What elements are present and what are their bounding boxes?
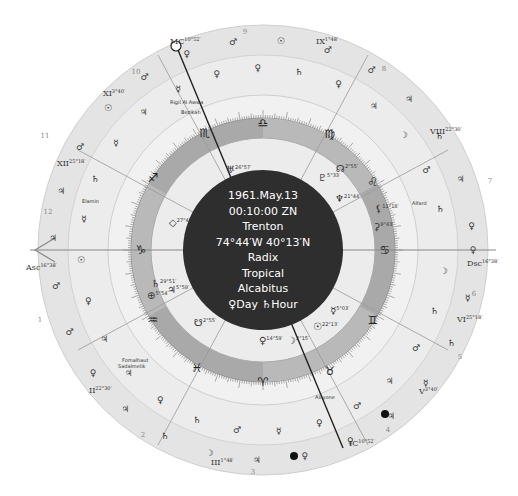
svg-text:♀: ♀ — [335, 79, 342, 89]
svg-text:♂: ♂ — [422, 165, 430, 175]
svg-text:☿: ☿ — [113, 138, 119, 148]
svg-text:♀: ♀ — [468, 221, 475, 231]
svg-text:♀: ♀ — [157, 395, 164, 405]
svg-text:7: 7 — [488, 177, 492, 185]
svg-text:♄: ♄ — [295, 67, 303, 77]
svg-text:☿: ☿ — [276, 426, 282, 436]
chart-type: Radix — [189, 250, 337, 266]
svg-text:♀: ♀ — [347, 436, 354, 446]
svg-text:♀: ♀ — [90, 368, 97, 378]
svg-text:♄: ♄ — [91, 174, 99, 184]
svg-text:5: 5 — [458, 353, 462, 361]
svg-text:☽: ☽ — [206, 448, 214, 458]
svg-text:♄: ♄ — [436, 131, 444, 141]
sign-aquarius-icon: ♒ — [148, 313, 159, 327]
svg-text:1: 1 — [38, 316, 42, 324]
svg-text:2: 2 — [141, 431, 145, 439]
sign-pisces-icon: ♓ — [192, 361, 203, 375]
sign-leo-icon: ♌ — [368, 175, 379, 189]
svg-text:♃: ♃ — [140, 107, 148, 117]
svg-text:♀: ♀ — [255, 63, 262, 73]
zodiac-type: Tropical — [189, 266, 337, 282]
house-system: Alcabitus — [189, 281, 337, 297]
svg-text:♃: ♃ — [57, 186, 65, 196]
svg-text:8: 8 — [382, 65, 386, 73]
svg-text:☉: ☉ — [277, 36, 285, 46]
svg-text:☿: ☿ — [175, 84, 181, 94]
svg-text:3: 3 — [251, 468, 255, 476]
svg-text:♂: ♂ — [367, 65, 375, 75]
svg-text:12: 12 — [44, 208, 53, 216]
svg-text:☿: ☿ — [423, 378, 429, 388]
svg-text:♄: ♄ — [436, 204, 444, 214]
svg-text:♃: ♃ — [100, 334, 108, 344]
svg-text:♀: ♀ — [316, 418, 323, 428]
svg-text:♃: ♃ — [125, 368, 133, 378]
marker-dot — [290, 452, 298, 460]
svg-text:♂: ♂ — [140, 72, 148, 82]
svg-text:♃: ♃ — [121, 404, 129, 414]
svg-text:♀: ♀ — [301, 451, 308, 461]
chart-date: 1961.May.13 — [189, 188, 337, 204]
svg-text:☉: ☉ — [77, 255, 85, 265]
chart-time: 00:10:00 ZN — [189, 204, 337, 220]
svg-text:☽: ☽ — [400, 130, 408, 140]
svg-text:Elamin: Elamin — [82, 198, 99, 204]
svg-text:☉: ☉ — [104, 103, 112, 113]
svg-text:♃: ♃ — [457, 174, 465, 184]
svg-text:Bezikah: Bezikah — [181, 109, 201, 115]
svg-text:♂: ♂ — [353, 401, 361, 411]
svg-text:♄: ♄ — [193, 415, 201, 425]
sign-virgo-icon: ♍ — [325, 127, 336, 141]
svg-text:♃: ♃ — [253, 455, 261, 465]
svg-text:☿: ☿ — [465, 293, 471, 303]
sign-gemini-icon: ♊ — [368, 313, 379, 327]
chart-coords: 74°44′W 40°13′N — [189, 235, 337, 251]
svg-text:♃: ♃ — [370, 101, 378, 111]
sign-libra-icon: ♎ — [258, 116, 269, 130]
svg-text:☿: ☿ — [81, 214, 87, 224]
svg-text:4: 4 — [386, 426, 391, 434]
svg-text:11: 11 — [41, 132, 50, 140]
svg-text:9: 9 — [243, 28, 247, 36]
marker-dot — [381, 410, 389, 418]
svg-text:Rigil Al Awwa: Rigil Al Awwa — [170, 99, 203, 106]
svg-text:♀: ♀ — [184, 49, 191, 59]
svg-text:♃: ♃ — [386, 376, 394, 386]
sign-cancer-icon: ♋ — [380, 243, 391, 257]
svg-text:♄: ♄ — [161, 431, 169, 441]
svg-text:6: 6 — [472, 290, 477, 298]
svg-text:♂: ♂ — [229, 37, 237, 47]
svg-text:Alcyone: Alcyone — [315, 394, 335, 401]
svg-text:♄: ♄ — [430, 306, 438, 316]
svg-text:♃: ♃ — [405, 94, 413, 104]
svg-text:♂: ♂ — [233, 425, 241, 435]
svg-text:♂: ♂ — [324, 45, 332, 55]
svg-text:♂: ♂ — [66, 327, 74, 337]
chart-place: Trenton — [189, 219, 337, 235]
day-hour: ♀Day ♄Hour — [189, 297, 337, 313]
svg-text:♂: ♂ — [52, 281, 60, 291]
svg-text:♂: ♂ — [412, 343, 420, 353]
svg-text:♂: ♂ — [76, 142, 84, 152]
svg-text:☽: ☽ — [440, 266, 448, 276]
svg-text:♀: ♀ — [85, 296, 92, 306]
svg-text:♄: ♄ — [447, 338, 455, 348]
sign-capricorn-icon: ♑ — [136, 243, 147, 257]
sign-aries-icon: ♈ — [258, 375, 269, 389]
svg-text:10: 10 — [132, 68, 141, 76]
svg-text:♀: ♀ — [470, 245, 477, 255]
svg-text:♃: ♃ — [49, 233, 57, 243]
sign-scorpio-icon: ♏ — [200, 126, 211, 140]
svg-text:♀: ♀ — [213, 69, 220, 79]
sign-sagittarius-icon: ♐ — [148, 171, 159, 185]
sign-taurus-icon: ♉ — [325, 364, 336, 378]
svg-text:Alfard: Alfard — [412, 200, 427, 206]
chart-info: 1961.May.13 00:10:00 ZN Trenton 74°44′W … — [189, 188, 337, 312]
